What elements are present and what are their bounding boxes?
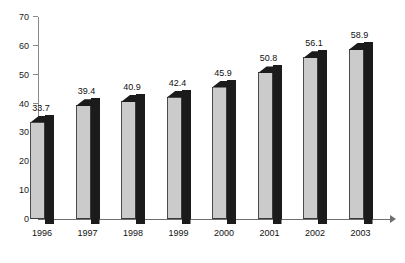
bar-front-face bbox=[167, 97, 182, 219]
x-axis-category-label: 1996 bbox=[19, 228, 65, 238]
y-axis-tick-label: 0 bbox=[24, 214, 29, 224]
y-axis-tick: 60 bbox=[0, 41, 38, 51]
bar-value-label: 40.9 bbox=[112, 82, 152, 92]
bar bbox=[258, 72, 282, 219]
bar-value-label: 39.4 bbox=[67, 86, 107, 96]
bar-front-face bbox=[303, 57, 318, 219]
y-axis-tick-label: 10 bbox=[19, 185, 29, 195]
y-axis-tick: 70 bbox=[0, 12, 38, 22]
y-axis-tick-label: 30 bbox=[19, 127, 29, 137]
bar-side-face bbox=[182, 90, 191, 219]
bar-side-face bbox=[136, 94, 145, 219]
bar-base-shadow bbox=[227, 219, 236, 224]
bar-front-face bbox=[349, 49, 364, 219]
bar bbox=[76, 105, 100, 219]
y-axis-tick-label: 60 bbox=[19, 41, 29, 51]
x-axis-category-label: 1997 bbox=[65, 228, 111, 238]
bar-value-label: 42.4 bbox=[158, 78, 198, 88]
bar-front-face bbox=[30, 122, 45, 219]
x-axis-category-label: 2001 bbox=[247, 228, 293, 238]
bar-base-shadow bbox=[45, 219, 54, 224]
x-axis-category-label: 2002 bbox=[292, 228, 338, 238]
bar-base-shadow bbox=[318, 219, 327, 224]
bar bbox=[121, 101, 145, 219]
bar-side-face bbox=[364, 42, 373, 219]
bar-front-face bbox=[121, 101, 136, 219]
bar-chart: 010203040506070 199619971998199920002001… bbox=[0, 0, 405, 263]
bar-value-label: 45.9 bbox=[203, 68, 243, 78]
bar-value-label: 50.8 bbox=[249, 53, 289, 63]
bar-value-label: 56.1 bbox=[294, 38, 334, 48]
bar-front-face bbox=[76, 105, 91, 219]
bar-front-face bbox=[258, 72, 273, 219]
bar-base-shadow bbox=[91, 219, 100, 224]
bar bbox=[167, 97, 191, 219]
bar bbox=[303, 57, 327, 219]
y-axis-tick-label: 70 bbox=[19, 12, 29, 22]
bar-side-face bbox=[273, 65, 282, 219]
bar-side-face bbox=[45, 115, 54, 219]
bar-base-shadow bbox=[182, 219, 191, 224]
bar bbox=[212, 87, 236, 219]
y-axis-tick-mark bbox=[33, 74, 38, 75]
y-axis-tick-mark bbox=[33, 45, 38, 46]
y-axis-tick: 50 bbox=[0, 70, 38, 80]
x-axis-arrow-icon bbox=[390, 215, 396, 223]
bar-front-face bbox=[212, 87, 227, 219]
bar bbox=[30, 122, 54, 219]
bar bbox=[349, 49, 373, 219]
bar-side-face bbox=[91, 98, 100, 219]
y-axis-tick-label: 20 bbox=[19, 156, 29, 166]
x-axis-category-label: 1998 bbox=[110, 228, 156, 238]
bar-base-shadow bbox=[364, 219, 373, 224]
bar-side-face bbox=[227, 80, 236, 219]
y-axis-tick-label: 50 bbox=[19, 70, 29, 80]
bar-value-label: 58.9 bbox=[340, 30, 380, 40]
bar-base-shadow bbox=[273, 219, 282, 224]
x-axis-category-label: 1999 bbox=[156, 228, 202, 238]
bar-side-face bbox=[318, 50, 327, 219]
bar-base-shadow bbox=[136, 219, 145, 224]
y-axis-tick-mark bbox=[33, 16, 38, 17]
bar-value-label: 33.7 bbox=[21, 103, 61, 113]
x-axis-category-label: 2000 bbox=[201, 228, 247, 238]
x-axis-category-label: 2003 bbox=[338, 228, 384, 238]
